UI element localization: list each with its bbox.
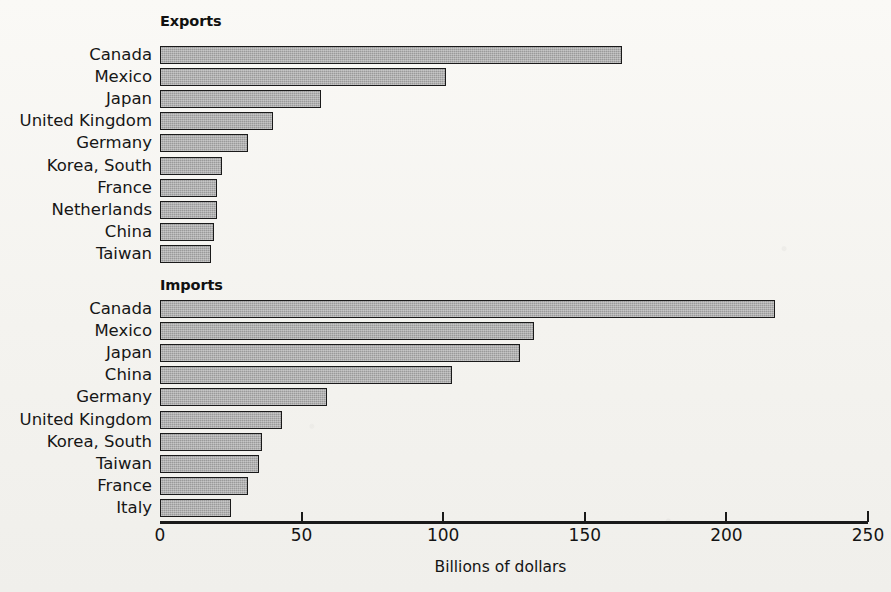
- bar-exports-0: [160, 46, 622, 64]
- imports-section-title: Imports: [160, 277, 223, 293]
- bar-exports-6: [160, 179, 217, 197]
- chart-page: Exports Imports CanadaMexicoJapanUnited …: [0, 0, 891, 592]
- category-label-exports-2: Japan: [0, 91, 152, 108]
- x-tick-100: [442, 512, 444, 521]
- x-tick-label-0: 0: [155, 525, 166, 545]
- category-label-exports-7: Netherlands: [0, 202, 152, 219]
- bar-exports-8: [160, 223, 214, 241]
- x-axis-title: Billions of dollars: [0, 558, 891, 576]
- bar-imports-2: [160, 344, 520, 362]
- bar-imports-5: [160, 411, 282, 429]
- category-label-imports-6: Korea, South: [0, 434, 152, 451]
- bar-exports-9: [160, 245, 211, 263]
- category-label-exports-9: Taiwan: [0, 246, 152, 263]
- bar-imports-8: [160, 477, 248, 495]
- category-label-imports-4: Germany: [0, 389, 152, 406]
- category-label-exports-0: Canada: [0, 47, 152, 64]
- x-axis-line: [160, 521, 868, 524]
- category-label-column: CanadaMexicoJapanUnited KingdomGermanyKo…: [0, 0, 152, 592]
- bar-exports-4: [160, 134, 248, 152]
- x-tick-label-50: 50: [291, 525, 313, 545]
- category-label-imports-5: United Kingdom: [0, 412, 152, 429]
- category-label-exports-6: France: [0, 180, 152, 197]
- bar-imports-3: [160, 366, 452, 384]
- x-tick-label-200: 200: [710, 525, 742, 545]
- x-tick-50: [301, 512, 303, 521]
- bar-imports-6: [160, 433, 262, 451]
- category-label-exports-3: United Kingdom: [0, 113, 152, 130]
- x-tick-250: [867, 511, 869, 522]
- category-label-imports-0: Canada: [0, 301, 152, 318]
- category-label-imports-9: Italy: [0, 500, 152, 517]
- bar-imports-1: [160, 322, 534, 340]
- bar-exports-2: [160, 90, 321, 108]
- category-label-imports-3: China: [0, 367, 152, 384]
- x-tick-label-100: 100: [427, 525, 459, 545]
- x-axis-title-text: Billions of dollars: [435, 558, 567, 576]
- bar-exports-5: [160, 157, 222, 175]
- category-label-exports-1: Mexico: [0, 69, 152, 86]
- bar-exports-1: [160, 68, 446, 86]
- category-label-imports-7: Taiwan: [0, 456, 152, 473]
- bar-exports-7: [160, 201, 217, 219]
- bar-imports-0: [160, 300, 775, 318]
- x-tick-label-250: 250: [852, 525, 884, 545]
- bar-imports-4: [160, 388, 327, 406]
- category-label-imports-8: France: [0, 478, 152, 495]
- category-label-imports-1: Mexico: [0, 323, 152, 340]
- category-label-exports-4: Germany: [0, 135, 152, 152]
- x-tick-label-150: 150: [569, 525, 601, 545]
- exports-section-title: Exports: [160, 13, 222, 29]
- category-label-exports-5: Korea, South: [0, 158, 152, 175]
- x-tick-200: [725, 512, 727, 521]
- bar-exports-3: [160, 112, 273, 130]
- category-label-exports-8: China: [0, 224, 152, 241]
- x-tick-150: [584, 512, 586, 521]
- category-label-imports-2: Japan: [0, 345, 152, 362]
- bar-imports-9: [160, 499, 231, 517]
- bar-imports-7: [160, 455, 259, 473]
